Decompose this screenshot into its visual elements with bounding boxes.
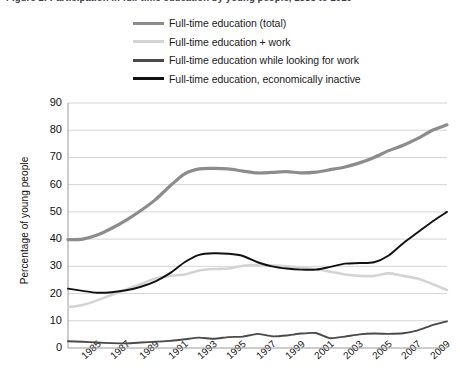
chart-figure: Figure 1: Participation in full-time edu… (0, 0, 460, 381)
series-line (68, 212, 447, 293)
series-line (68, 321, 447, 343)
plot-area (0, 0, 460, 381)
series-line (68, 125, 447, 240)
series-line (68, 265, 447, 307)
